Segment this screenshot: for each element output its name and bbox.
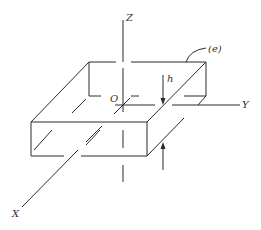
thickness-arrow-top bbox=[161, 75, 166, 105]
origin-label: O bbox=[110, 93, 118, 104]
element-label: (e) bbox=[208, 43, 222, 54]
z-axis-label: Z bbox=[125, 12, 134, 23]
y-axis-label: Y bbox=[242, 99, 250, 110]
diagram-canvas: Z Y X O h (e) bbox=[0, 0, 261, 230]
plate-right-face bbox=[147, 62, 206, 156]
element-leader bbox=[186, 48, 206, 62]
thickness-label: h bbox=[167, 73, 173, 84]
plate-top-face bbox=[31, 62, 206, 122]
plate-element-diagram: Z Y X O h (e) bbox=[0, 0, 261, 230]
x-axis-label: X bbox=[11, 208, 20, 219]
thickness-arrow-bottom bbox=[161, 142, 166, 170]
